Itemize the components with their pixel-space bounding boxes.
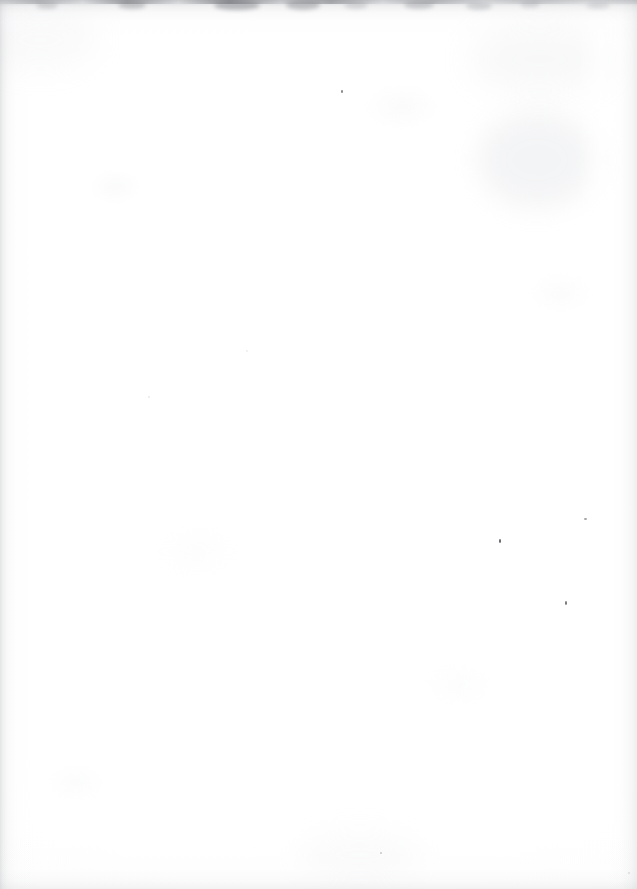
top-edge-smudge-2	[214, 1, 260, 10]
top-edge-smudge-8	[586, 2, 610, 9]
speck-mid-page	[246, 350, 248, 352]
top-edge-smudge-6	[466, 2, 492, 10]
top-edge-smudge-7	[520, 1, 540, 8]
top-edge-smudge-0	[36, 2, 58, 9]
top-edge-smudge-1	[118, 1, 146, 9]
top-edge-smudge-4	[344, 2, 368, 9]
scanned-page	[0, 0, 637, 889]
speck-center-right	[499, 539, 501, 543]
speck-bottom-center	[380, 852, 382, 854]
top-edge-smudge-3	[286, 0, 320, 10]
paper-fibre-mottling	[0, 0, 637, 889]
speck-lower-right	[565, 601, 567, 605]
speck-right-upper	[584, 518, 587, 520]
speck-upper-center	[341, 90, 343, 93]
speck-left-mid	[148, 396, 150, 398]
speck-right-low	[628, 872, 630, 874]
top-edge-smudge-5	[404, 1, 434, 9]
